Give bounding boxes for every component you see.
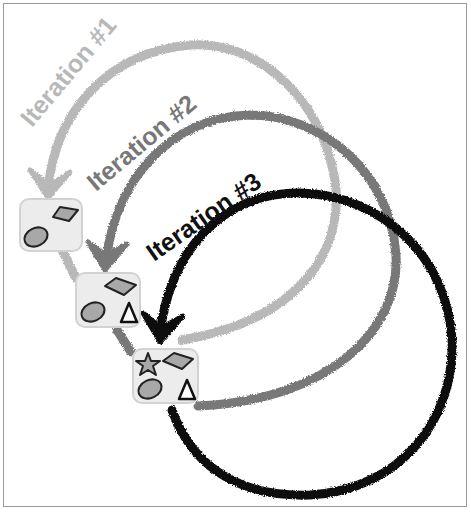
- iteration-diagram: Iteration #1 Iteration #2 Iteration #3: [0, 0, 471, 513]
- iteration-2-result-box: [76, 273, 140, 327]
- iteration-2-connector: [117, 330, 131, 352]
- iteration-3-result-box: [133, 349, 198, 403]
- iteration-1-connector: [62, 250, 76, 278]
- iteration-1-result-box: [20, 199, 82, 251]
- iteration-3-label: Iteration #3: [141, 167, 266, 266]
- iteration-3-arc: [160, 193, 452, 495]
- iteration-2-label: Iteration #2: [81, 89, 201, 196]
